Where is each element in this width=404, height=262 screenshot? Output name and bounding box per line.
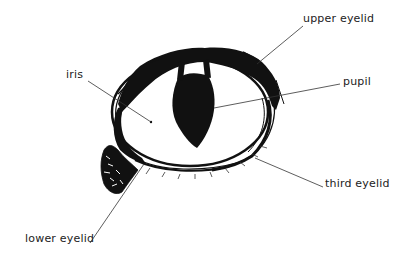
- cat-eye-illustration: [0, 0, 404, 262]
- label-pupil: pupil: [343, 76, 371, 87]
- leader-third-eyelid: [255, 158, 323, 187]
- cat-eye-diagram: upper eyelid pupil iris third eyelid low…: [0, 0, 404, 262]
- label-iris: iris: [66, 69, 83, 80]
- label-upper-eyelid: upper eyelid: [303, 13, 374, 24]
- label-lower-eyelid: lower eyelid: [25, 233, 94, 244]
- leader-upper-eyelid: [257, 26, 303, 64]
- label-third-eyelid: third eyelid: [325, 178, 390, 189]
